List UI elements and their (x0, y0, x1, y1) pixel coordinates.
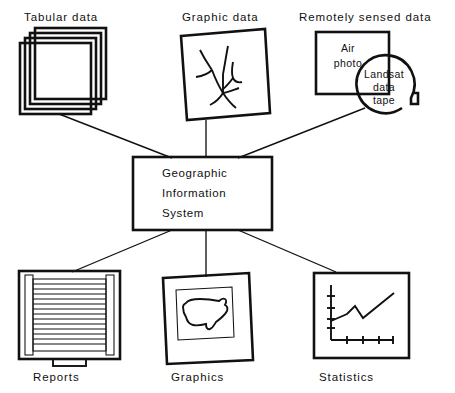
label-graphics: Graphics (171, 371, 224, 383)
graphics-sheet (163, 273, 253, 364)
connector-center-to-reports (72, 230, 172, 272)
label-reports: Reports (33, 371, 80, 383)
page-stack-icon (20, 28, 106, 114)
landsat-tape-line1: Landsat (364, 68, 404, 80)
label-statistics: Statistics (319, 371, 374, 383)
gis-line-geographic: Geographic (162, 167, 227, 179)
air-photo-line1: Air (341, 42, 355, 54)
connector-tabular-to-center (59, 114, 172, 158)
gis-center-box: Geographic Information System (133, 157, 272, 230)
connector-center-to-statistics (238, 230, 336, 272)
gis-diagram: Tabular data Graphic data Remotely sense… (0, 0, 455, 393)
landsat-tape-line3: tape (373, 94, 395, 106)
chart-data-line (331, 293, 394, 321)
stream-network-drawing (196, 46, 242, 108)
label-graphic-data: Graphic data (182, 11, 259, 23)
air-photo-line2: photo (334, 57, 362, 69)
fanfold-printout-icon (19, 271, 120, 366)
gis-line-information: Information (162, 187, 226, 199)
diagram-canvas: Tabular data Graphic data Remotely sense… (0, 0, 455, 393)
fanfold-lines (33, 284, 106, 344)
us-map-plot-icon (163, 273, 253, 364)
gis-line-system: System (162, 207, 204, 219)
graphic-data-sheet (181, 29, 270, 120)
line-chart-icon (314, 273, 409, 358)
connector-remote-to-center (238, 108, 365, 158)
landsat-tape-line2: data (373, 81, 395, 93)
label-remotely-sensed-data: Remotely sensed data (299, 11, 431, 23)
label-tabular-data: Tabular data (24, 11, 98, 23)
air-photo-and-tape-icon: Air photo Landsat data tape (316, 32, 418, 113)
us-map-outline (183, 299, 227, 330)
stream-network-map-icon (181, 29, 270, 120)
